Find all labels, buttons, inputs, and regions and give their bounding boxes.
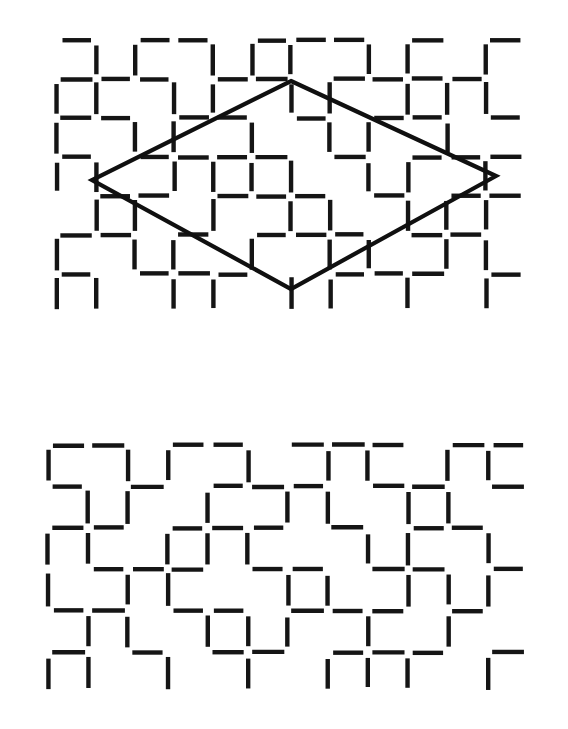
texture-dash-grid-lower <box>47 444 523 690</box>
lower-texture-panel <box>0 390 568 729</box>
upper-texture-canvas <box>0 0 568 360</box>
rhombus-outline <box>92 81 496 289</box>
figure-root <box>0 0 568 729</box>
upper-texture-panel <box>0 0 568 360</box>
lower-texture-canvas <box>0 390 568 729</box>
